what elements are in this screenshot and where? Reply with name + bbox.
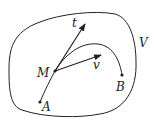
label-B: B (115, 80, 125, 94)
tangent-vector-t (55, 24, 85, 71)
label-region-V: V (139, 36, 149, 50)
diagram-canvas: t v M A B V (0, 0, 154, 126)
label-v: v (93, 58, 100, 72)
point-M (53, 69, 56, 72)
label-t: t (72, 16, 77, 30)
label-A: A (41, 100, 51, 114)
point-B (120, 73, 123, 76)
curve-A-to-B (40, 44, 122, 102)
label-M: M (36, 66, 50, 80)
